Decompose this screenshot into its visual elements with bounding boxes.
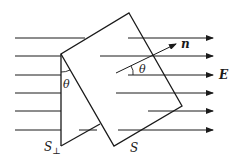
surface-perp-label-sub: ⊥ — [52, 146, 60, 156]
normal-vector — [116, 44, 176, 73]
surface-perp-label-main: S — [44, 140, 52, 154]
flux-diagram: n E θ θ S S⊥ — [0, 0, 240, 165]
field-label: E — [218, 68, 229, 82]
surface-s-label: S — [130, 141, 138, 155]
angle-theta-normal: θ — [139, 63, 146, 76]
field-lines — [15, 38, 213, 130]
surface-perp — [61, 54, 100, 146]
surface-perp-bottom — [61, 124, 100, 146]
surface-perp-label: S⊥ — [44, 140, 61, 156]
angle-arc-normal — [131, 66, 133, 75]
angle-arc-surface — [61, 70, 70, 72]
angle-theta-surface: θ — [63, 78, 70, 91]
normal-label: n — [181, 37, 190, 51]
surface-s — [61, 13, 182, 146]
